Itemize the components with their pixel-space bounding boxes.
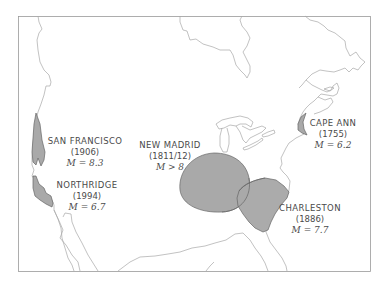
- quake-year: (1755): [305, 129, 361, 140]
- label-cape-ann: CAPE ANN (1755) M = 6.2: [305, 118, 361, 151]
- lake-michigan: [220, 128, 229, 152]
- quake-year: (1994): [52, 191, 122, 202]
- quake-magnitude: M = 7.7: [278, 225, 342, 236]
- label-charleston: CHARLESTON (1886) M = 7.7: [278, 203, 342, 236]
- baja-coastline: [54, 210, 80, 271]
- northridge-zone: [33, 176, 53, 207]
- gulf-st-lawrence-coastline: [306, 80, 339, 108]
- lake-superior: [216, 116, 253, 129]
- label-new-madrid: NEW MADRID (1811/12) M > 8: [135, 140, 205, 173]
- quake-name: NORTHRIDGE: [52, 180, 122, 191]
- mexico-east-coastline: [206, 262, 214, 271]
- pei-island: [324, 87, 334, 91]
- quake-name: SAN FRANCISCO: [45, 136, 125, 147]
- mexico-coastline: [63, 213, 98, 271]
- quake-year: (1906): [45, 147, 125, 158]
- quake-magnitude: M = 8.3: [45, 158, 125, 169]
- nova-scotia-coastline: [314, 97, 333, 114]
- hudson-bay-coastline: [180, 16, 250, 78]
- quake-name: CAPE ANN: [305, 118, 361, 129]
- quake-name: NEW MADRID: [135, 140, 205, 151]
- lake-erie: [243, 138, 263, 150]
- lake-ontario: [262, 130, 275, 137]
- quake-magnitude: M = 6.7: [52, 202, 122, 213]
- quake-name: CHARLESTON: [278, 203, 342, 214]
- quake-magnitude: M > 8: [135, 162, 205, 173]
- san-francisco-zone: [32, 113, 45, 166]
- gulf-coastline: [118, 233, 268, 271]
- northeast-canada-coastline: [299, 16, 365, 88]
- label-san-francisco: SAN FRANCISCO (1906) M = 8.3: [45, 136, 125, 169]
- lake-huron: [236, 126, 266, 143]
- label-northridge: NORTHRIDGE (1994) M = 6.7: [52, 180, 122, 213]
- quake-magnitude: M = 6.2: [305, 140, 361, 151]
- quake-year: (1886): [278, 214, 342, 225]
- quake-year: (1811/12): [135, 151, 205, 162]
